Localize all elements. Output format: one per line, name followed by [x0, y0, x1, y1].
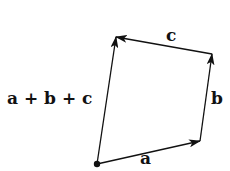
label-b: b: [211, 90, 223, 107]
vector-sum-arrow: [97, 37, 116, 164]
vector-arrows: [0, 0, 230, 171]
vector-c-arrow: [116, 37, 212, 54]
origin-dot: [94, 161, 100, 167]
label-sum: a + b + c: [7, 90, 92, 107]
label-c: c: [166, 27, 176, 44]
vector-sum-diagram: c b a a + b + c: [0, 0, 230, 171]
label-a: a: [140, 150, 151, 167]
